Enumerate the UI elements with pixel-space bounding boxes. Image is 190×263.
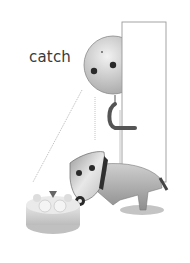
illustration-canvas: catch bbox=[0, 0, 190, 263]
figure-eye-right bbox=[110, 62, 116, 68]
door bbox=[122, 22, 166, 182]
figure-eye-left bbox=[91, 68, 97, 74]
birthday-cake bbox=[26, 191, 80, 234]
caption-text: catch bbox=[29, 50, 71, 65]
illustration-svg bbox=[0, 0, 190, 263]
